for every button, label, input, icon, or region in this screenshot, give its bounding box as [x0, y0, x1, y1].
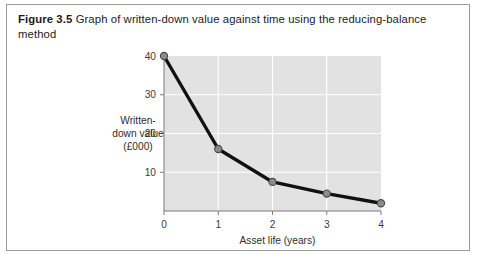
data-point-marker: [323, 190, 330, 197]
figure-box: Figure 3.5 Graph of written-down value a…: [6, 4, 470, 251]
y-axis-title-line: (£000): [123, 141, 152, 152]
chart-container: 4030201001234Asset life (years)Written-d…: [7, 5, 469, 250]
y-tick-label: 30: [145, 89, 157, 100]
data-point-marker: [215, 145, 222, 152]
x-tick-label: 3: [324, 219, 330, 230]
y-tick-label: 10: [145, 167, 157, 178]
data-point-marker: [377, 200, 384, 207]
data-point-marker: [160, 52, 167, 59]
y-tick-label: 40: [145, 51, 157, 62]
data-point-marker: [269, 178, 276, 185]
x-tick-label: 0: [161, 219, 167, 230]
x-tick-label: 1: [215, 219, 221, 230]
written-down-value-line-chart: 4030201001234Asset life (years)Written-d…: [7, 5, 469, 250]
x-axis-title: Asset life (years): [240, 235, 316, 246]
y-axis-title-line: down value: [112, 128, 164, 139]
x-tick-label: 4: [378, 219, 384, 230]
x-tick-label: 2: [270, 219, 276, 230]
y-axis-title-line: Written-: [120, 115, 155, 126]
